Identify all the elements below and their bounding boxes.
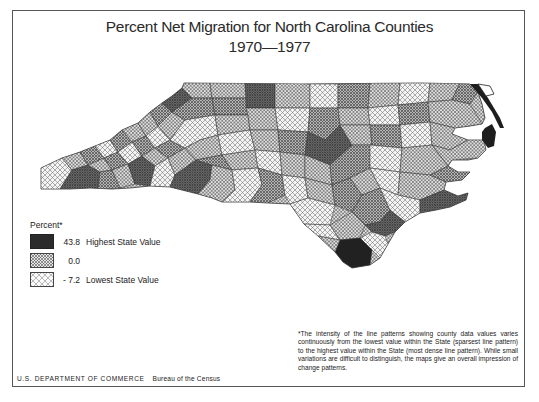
- legend-label: Lowest State Value: [86, 275, 159, 285]
- sparse-pattern-swatch-icon: [30, 272, 54, 287]
- department-name: U.S. DEPARTMENT OF COMMERCE: [17, 375, 145, 382]
- legend-title: Percent*: [30, 220, 63, 230]
- legend-value: - 7.2: [58, 275, 80, 285]
- credit-line: U.S. DEPARTMENT OF COMMERCEBureau of the…: [17, 375, 220, 382]
- dense-pattern-swatch-icon: [30, 234, 54, 249]
- legend-label: Highest State Value: [86, 237, 161, 247]
- legend-value: 0.0: [58, 256, 80, 266]
- footnote: *The intensity of the line patterns show…: [298, 330, 518, 372]
- legend-value: 43.8: [58, 237, 80, 247]
- bureau-name: Bureau of the Census: [153, 375, 221, 382]
- medium-pattern-swatch-icon: [30, 253, 54, 268]
